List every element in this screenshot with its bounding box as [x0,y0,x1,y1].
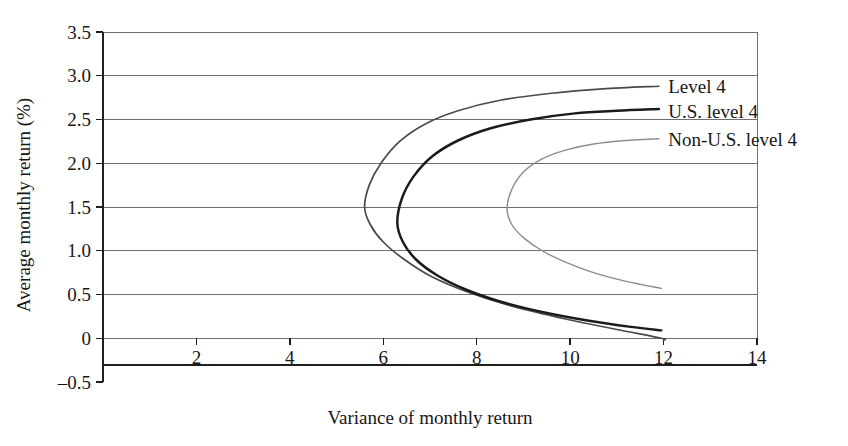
series-inline-labels: Level 4U.S. level 4Non-U.S. level 4 [668,76,797,150]
efficient-frontier-chart: –0.500.51.01.52.02.53.03.5 2468101214 Le… [0,0,848,446]
frontier-curve [397,109,661,330]
y-axis-tick-label: 2.5 [67,109,91,130]
y-axis-tick-label: –0.5 [57,372,91,393]
y-axis-tick-label: 2.0 [67,153,91,174]
x-axis-tick-label: 14 [748,347,768,368]
y-axis-tick-label: 3.5 [67,22,91,43]
x-axis-tick-label: 6 [379,347,389,368]
y-axis-tick-label: 1.5 [67,197,91,218]
series-inline-label: Non-U.S. level 4 [668,129,797,150]
x-axis-tick-label: 2 [192,347,202,368]
x-axis-tick-label: 4 [285,347,295,368]
chart-container: –0.500.51.01.52.02.53.03.5 2468101214 Le… [0,0,848,446]
x-axis-tick-label: 10 [561,347,580,368]
frontier-curve [365,86,666,340]
series-inline-label: U.S. level 4 [668,101,758,122]
y-axis-tick-label: 3.0 [67,65,91,86]
x-axis-tick-label: 8 [472,347,482,368]
x-axis-ticks [196,338,757,345]
y-axis-tick-label: 1.0 [67,240,91,261]
series-inline-label: Level 4 [668,76,726,97]
y-axis-title: Average monthly return (%) [13,98,35,312]
x-axis-tick-label: 12 [654,347,673,368]
y-axis-tick-label: 0.5 [67,284,91,305]
y-axis-ticks [96,32,103,382]
gridlines [103,32,757,338]
data-series-group [365,86,666,340]
frontier-curve [507,139,661,289]
y-axis-tick-labels: –0.500.51.01.52.02.53.03.5 [57,22,91,393]
x-axis-title: Variance of monthly return [327,407,533,428]
y-axis-tick-label: 0 [82,328,92,349]
